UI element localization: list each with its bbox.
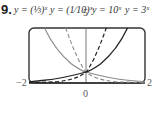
curve-three-power (29, 28, 128, 82)
plot-area (0, 0, 154, 118)
x-axis-max-label: 2 (147, 77, 152, 88)
plot-frame (29, 28, 145, 83)
origin-label: 0 (83, 88, 88, 99)
x-axis-min-label: −2 (16, 77, 27, 88)
curve-one-third-power (45, 28, 146, 82)
